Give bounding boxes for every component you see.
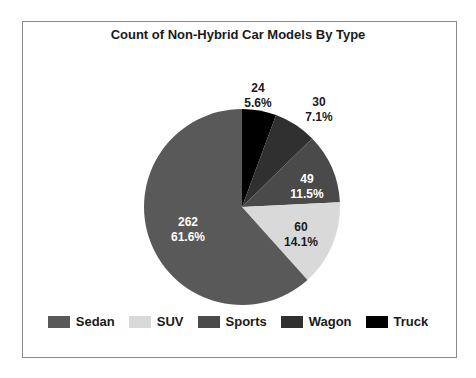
pie-slices bbox=[144, 109, 340, 305]
slice-percent-label: 7.1% bbox=[305, 110, 333, 124]
legend-swatch-wagon bbox=[281, 316, 303, 328]
slice-percent-label: 11.5% bbox=[290, 187, 324, 201]
legend-label: Wagon bbox=[309, 314, 352, 329]
slice-percent-label: 5.6% bbox=[244, 96, 272, 110]
legend-item-sports: Sports bbox=[198, 314, 267, 329]
legend-label: Sedan bbox=[76, 314, 115, 329]
slice-value-label: 24 bbox=[251, 81, 265, 95]
legend-item-sedan: Sedan bbox=[48, 314, 115, 329]
legend-label: Truck bbox=[394, 314, 429, 329]
legend-item-wagon: Wagon bbox=[281, 314, 352, 329]
legend-swatch-sports bbox=[198, 316, 220, 328]
legend-label: Sports bbox=[226, 314, 267, 329]
legend-swatch-suv bbox=[129, 316, 151, 328]
legend-swatch-sedan bbox=[48, 316, 70, 328]
slice-percent-label: 14.1% bbox=[284, 235, 318, 249]
legend: Sedan SUV Sports Wagon Truck bbox=[0, 314, 476, 329]
slice-value-label: 49 bbox=[300, 172, 314, 186]
legend-item-truck: Truck bbox=[366, 314, 429, 329]
slice-value-label: 60 bbox=[294, 220, 308, 234]
slice-value-label: 30 bbox=[312, 95, 326, 109]
legend-label: SUV bbox=[157, 314, 184, 329]
slice-percent-label: 61.6% bbox=[171, 230, 205, 244]
legend-item-suv: SUV bbox=[129, 314, 184, 329]
legend-swatch-truck bbox=[366, 316, 388, 328]
slice-value-label: 262 bbox=[178, 215, 198, 229]
